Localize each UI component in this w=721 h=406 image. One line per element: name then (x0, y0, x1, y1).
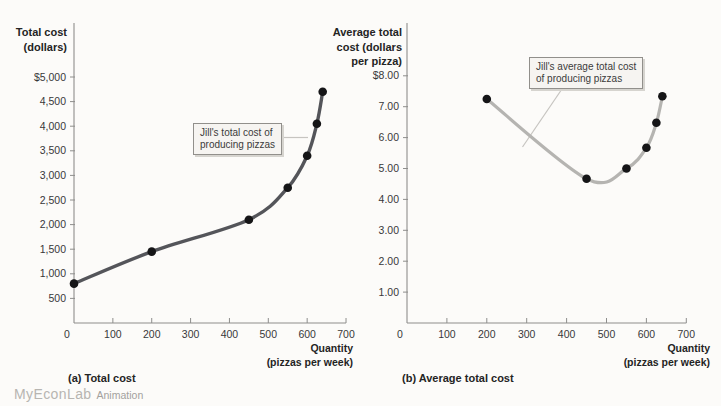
x-tick-label: 300 (518, 328, 536, 340)
y-tick-label: 3,500 (40, 144, 66, 156)
x-tick-label: 200 (143, 328, 161, 340)
panel-b-y-axis-title: Average total cost (dollars per pizza) (320, 25, 402, 69)
data-point (245, 215, 254, 224)
data-point (303, 151, 312, 160)
panel-b-caption: (b) Average total cost (402, 372, 514, 384)
y-tick-label: 500 (48, 292, 66, 304)
y-axis-title-line: cost (dollars (320, 40, 402, 55)
y-tick-label: 7.00 (379, 100, 400, 112)
data-point (622, 164, 631, 173)
y-tick-label: 1,000 (40, 267, 66, 279)
data-point (147, 247, 156, 256)
x-axis-title-line: (pizzas per week) (200, 356, 353, 370)
data-point (70, 279, 79, 288)
x-tick-label: 100 (438, 328, 456, 340)
data-point (283, 183, 292, 192)
panel-a-caption: (a) Total cost (68, 372, 136, 384)
x-tick-label: 0 (64, 328, 70, 340)
data-point (652, 118, 661, 127)
x-tick-label: 300 (182, 328, 200, 340)
y-tick-label: 4,500 (40, 95, 66, 107)
y-tick-label: 3.00 (379, 224, 400, 236)
y-tick-label: $5,000 (34, 71, 66, 83)
data-point (582, 174, 591, 183)
cost-curve (487, 96, 663, 183)
x-tick-label: 0 (397, 328, 403, 340)
x-tick-label: 600 (638, 328, 656, 340)
x-tick-label: 600 (298, 328, 316, 340)
x-tick-label: 700 (337, 328, 355, 340)
myeconlab-logo: MyEconLab (14, 386, 92, 402)
panel-a-y-axis-title: Total cost (dollars) (0, 25, 67, 54)
y-axis-title-line: Average total (320, 25, 402, 40)
data-point (483, 95, 492, 104)
x-tick-label: 700 (678, 328, 696, 340)
y-tick-label: 4.00 (379, 193, 400, 205)
x-tick-label: 100 (104, 328, 122, 340)
x-axis-title-line: Quantity (557, 342, 710, 356)
data-point (658, 92, 667, 101)
figure-jill-pizza-costs: 01002003004005006007005001,0001,5002,000… (0, 0, 721, 406)
panel-a-annotation-callout: Jill's total cost of producing pizzas (193, 123, 282, 155)
x-axis-title-line: (pizzas per week) (557, 356, 710, 370)
y-tick-label: 2,500 (40, 194, 66, 206)
panel-a-x-axis-title: Quantity (pizzas per week) (200, 342, 353, 370)
x-tick-label: 400 (558, 328, 576, 340)
x-tick-label: 200 (478, 328, 496, 340)
y-tick-label: 5.00 (379, 162, 400, 174)
panel-b-x-axis-title: Quantity (pizzas per week) (557, 342, 710, 370)
panel-b-annotation-callout: Jill's average total cost of producing p… (529, 57, 643, 89)
y-tick-label: 2,000 (40, 218, 66, 230)
data-point (318, 87, 327, 96)
data-point (313, 119, 322, 128)
animation-label: Animation (97, 389, 144, 401)
y-tick-label: 6.00 (379, 131, 400, 143)
x-tick-label: 500 (260, 328, 278, 340)
y-tick-label: 3,000 (40, 169, 66, 181)
x-axis-title-line: Quantity (200, 342, 353, 356)
y-tick-label: 1,500 (40, 243, 66, 255)
y-tick-label: $8.00 (373, 69, 399, 81)
y-axis-title-line: per pizza) (320, 54, 402, 69)
callout-leader-line (523, 86, 565, 147)
x-tick-label: 400 (221, 328, 239, 340)
y-axis-title-line: Total cost (0, 25, 67, 40)
panel-a-plot: 01002003004005006007005001,0001,5002,000… (34, 23, 355, 340)
x-tick-label: 500 (598, 328, 616, 340)
y-tick-label: 4,000 (40, 120, 66, 132)
y-tick-label: 1.00 (379, 286, 400, 298)
y-axis-title-line: (dollars) (0, 40, 67, 55)
data-point (642, 143, 651, 152)
y-tick-label: 2.00 (379, 255, 400, 267)
brand: MyEconLabAnimation (14, 385, 143, 403)
